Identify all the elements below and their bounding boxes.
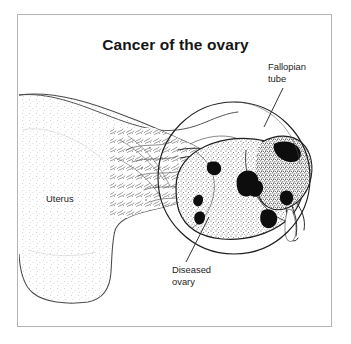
page-title: Cancer of the ovary	[0, 36, 351, 54]
figure-root: Cancer of the ovary	[0, 0, 351, 344]
label-uterus: Uterus	[46, 193, 74, 205]
label-fallopian-tube: Fallopian tube	[268, 61, 306, 84]
label-diseased-ovary: Diseased ovary	[172, 264, 211, 287]
